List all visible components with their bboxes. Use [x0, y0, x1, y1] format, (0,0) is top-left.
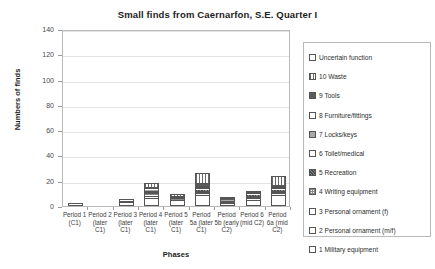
- legend-swatch-icon: [309, 246, 316, 253]
- bar-segment[interactable]: [170, 200, 185, 206]
- legend-label: 7 Locks/keys: [319, 131, 357, 138]
- x-axis-tickmark: [265, 207, 266, 210]
- legend-item[interactable]: 5 Recreation: [309, 163, 426, 182]
- legend-label: 1 Military equipment: [319, 246, 378, 253]
- y-axis-tick-label: 0: [26, 203, 54, 211]
- y-axis-tick-label: 20: [26, 178, 54, 186]
- x-axis-tick-label: Period 3 (later C1): [113, 211, 138, 234]
- x-axis-tick-label: Period 5a (later C1): [189, 211, 214, 234]
- bar-segment[interactable]: [220, 203, 235, 206]
- bar-segment[interactable]: [68, 203, 83, 206]
- legend-item[interactable]: 2 Personal ornament (m/f): [309, 221, 426, 240]
- x-axis-tick-label: Period 1 (C1): [62, 211, 87, 226]
- legend-swatch-icon: [309, 131, 316, 138]
- bar-segment[interactable]: [170, 194, 185, 196]
- legend-item[interactable]: 8 Furniture/fittings: [309, 106, 426, 125]
- x-axis-tick-label: Period 2 (later C1): [87, 211, 112, 234]
- legend-item[interactable]: 7 Locks/keys: [309, 125, 426, 144]
- legend-item[interactable]: 6 Toilet/medical: [309, 144, 426, 163]
- bar-segment[interactable]: [271, 195, 286, 206]
- bar-stack[interactable]: [170, 29, 185, 206]
- x-axis-tickmark: [189, 207, 190, 210]
- y-axis-tick-label: 100: [26, 77, 54, 85]
- legend-swatch-icon: [309, 208, 316, 215]
- bar-stack[interactable]: [68, 29, 83, 206]
- chart-container: Small finds from Caernarfon, S.E. Quarte…: [0, 0, 435, 269]
- x-axis-tick-label: Period 4 (later C1): [138, 211, 163, 234]
- x-axis-tick-label: Period 6a (mid C2): [265, 211, 290, 234]
- bar-stack[interactable]: [195, 29, 210, 206]
- legend-swatch-icon: [309, 188, 316, 195]
- x-axis-tickmark: [290, 207, 291, 210]
- legend-label: 2 Personal ornament (m/f): [319, 227, 396, 234]
- x-axis-tickmark: [214, 207, 215, 210]
- legend-item[interactable]: 3 Personal ornament (f): [309, 202, 426, 221]
- y-axis-tick-label: 40: [26, 152, 54, 160]
- legend-label: 3 Personal ornament (f): [319, 208, 388, 215]
- bar-stack[interactable]: [144, 29, 159, 206]
- legend-swatch-icon: [309, 227, 316, 234]
- y-axis-tick-label: 80: [26, 102, 54, 110]
- x-axis-tickmark: [113, 207, 114, 210]
- bar-segment[interactable]: [144, 198, 159, 206]
- bar-segment[interactable]: [271, 176, 286, 185]
- legend-swatch-icon: [309, 92, 316, 99]
- legend-swatch-icon: [309, 150, 316, 157]
- legend-swatch-icon: [309, 73, 316, 80]
- x-axis-tickmark: [138, 207, 139, 210]
- x-axis-tickmark: [87, 207, 88, 210]
- bar-segment[interactable]: [144, 196, 159, 199]
- chart-title: Small finds from Caernarfon, S.E. Quarte…: [0, 9, 435, 20]
- x-axis-tick-label: Period 5 (later C1): [163, 211, 188, 234]
- legend-swatch-icon: [309, 112, 316, 119]
- legend-label: 8 Furniture/fittings: [319, 112, 372, 119]
- x-axis-tick-label: Period 5b (early C2): [214, 211, 239, 234]
- y-axis-tickmark: [58, 207, 62, 208]
- bar-stack[interactable]: [94, 29, 109, 206]
- x-axis-tickmark: [239, 207, 240, 210]
- x-axis-title: Phases: [62, 250, 290, 259]
- x-axis-tickmark: [163, 207, 164, 210]
- bar-segment[interactable]: [246, 200, 261, 206]
- bar-stack[interactable]: [271, 29, 286, 206]
- legend-swatch-icon: [309, 54, 316, 61]
- legend-label: 9 Tools: [319, 92, 340, 99]
- bar-segment[interactable]: [195, 183, 210, 186]
- legend-label: 4 Writing equipment: [319, 188, 378, 195]
- bar-segment[interactable]: [119, 199, 134, 201]
- y-axis-tick-label: 60: [26, 127, 54, 135]
- y-axis-tick-label: 120: [26, 51, 54, 59]
- legend-item[interactable]: 4 Writing equipment: [309, 182, 426, 201]
- legend-item[interactable]: Uncertain function: [309, 48, 426, 67]
- bar-stack[interactable]: [246, 29, 261, 206]
- bar-stack[interactable]: [220, 29, 235, 206]
- legend-item[interactable]: 9 Tools: [309, 86, 426, 105]
- legend-swatch-icon: [309, 169, 316, 176]
- bar-segment[interactable]: [246, 191, 261, 193]
- y-axis-title: Numbers of finds: [13, 55, 22, 145]
- legend-label: 6 Toilet/medical: [319, 150, 364, 157]
- bar-segment[interactable]: [195, 173, 210, 183]
- bar-stack[interactable]: [119, 29, 134, 206]
- legend-label: 10 Waste: [319, 73, 347, 80]
- y-axis-tick-label: 140: [26, 26, 54, 34]
- bar-segment[interactable]: [195, 195, 210, 206]
- bar-segment[interactable]: [220, 197, 235, 199]
- legend-item[interactable]: 10 Waste: [309, 67, 426, 86]
- legend-label: Uncertain function: [319, 54, 372, 61]
- bar-segment[interactable]: [119, 202, 134, 206]
- legend-label: 5 Recreation: [319, 169, 356, 176]
- x-axis-tick-label: Period 6 (mid C2): [239, 211, 264, 226]
- bar-segment[interactable]: [144, 183, 159, 187]
- chart-legend: Uncertain function10 Waste9 Tools8 Furni…: [303, 42, 431, 237]
- plot-area: [62, 30, 290, 207]
- legend-item[interactable]: 1 Military equipment: [309, 240, 426, 259]
